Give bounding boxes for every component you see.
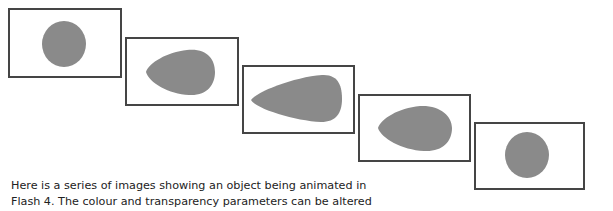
teardrop-shape [127, 39, 237, 104]
animation-frame-1 [8, 8, 122, 78]
animation-frame-2 [125, 37, 239, 106]
circle-shape [10, 10, 120, 76]
animation-frame-3 [242, 65, 355, 134]
figure-caption: Here is a series of images showing an ob… [11, 178, 611, 209]
caption-line-1: Here is a series of images showing an ob… [11, 178, 611, 194]
caption-line-2: Flash 4. The colour and transparency par… [11, 194, 611, 210]
animation-frame-4 [358, 94, 471, 162]
teardrop-shape [360, 96, 469, 160]
elongated-teardrop-shape [244, 67, 353, 132]
